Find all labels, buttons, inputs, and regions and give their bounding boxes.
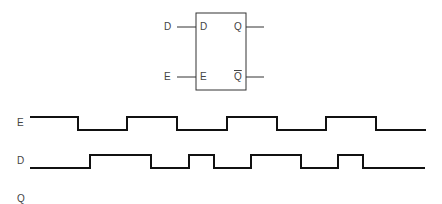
timing-label-d: D (17, 156, 24, 166)
outer-e-label: E (164, 72, 171, 82)
pin-e-label: E (200, 72, 207, 82)
timing-label-q: Q (17, 194, 25, 204)
timing-label-e: E (17, 118, 24, 128)
e-waveform (30, 117, 426, 130)
d-latch-timing-diagram: D E D E Q Q E D Q (0, 0, 442, 204)
pin-qbar-label: Q (234, 72, 242, 82)
pin-q-label: Q (234, 22, 242, 32)
pin-d-label: D (200, 22, 207, 32)
diagram-graphics (0, 0, 442, 204)
d-waveform (30, 155, 425, 168)
outer-d-label: D (164, 22, 171, 32)
